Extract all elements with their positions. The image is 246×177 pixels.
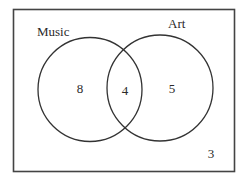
intersection-count: 4 [122,83,129,98]
music-set-label: Music [37,24,70,39]
venn-diagram: Music Art 8 4 5 3 [0,0,246,177]
art-set-label: Art [168,16,186,31]
music-only-count: 8 [77,81,84,96]
art-only-count: 5 [169,81,176,96]
outside-count: 3 [208,146,215,161]
